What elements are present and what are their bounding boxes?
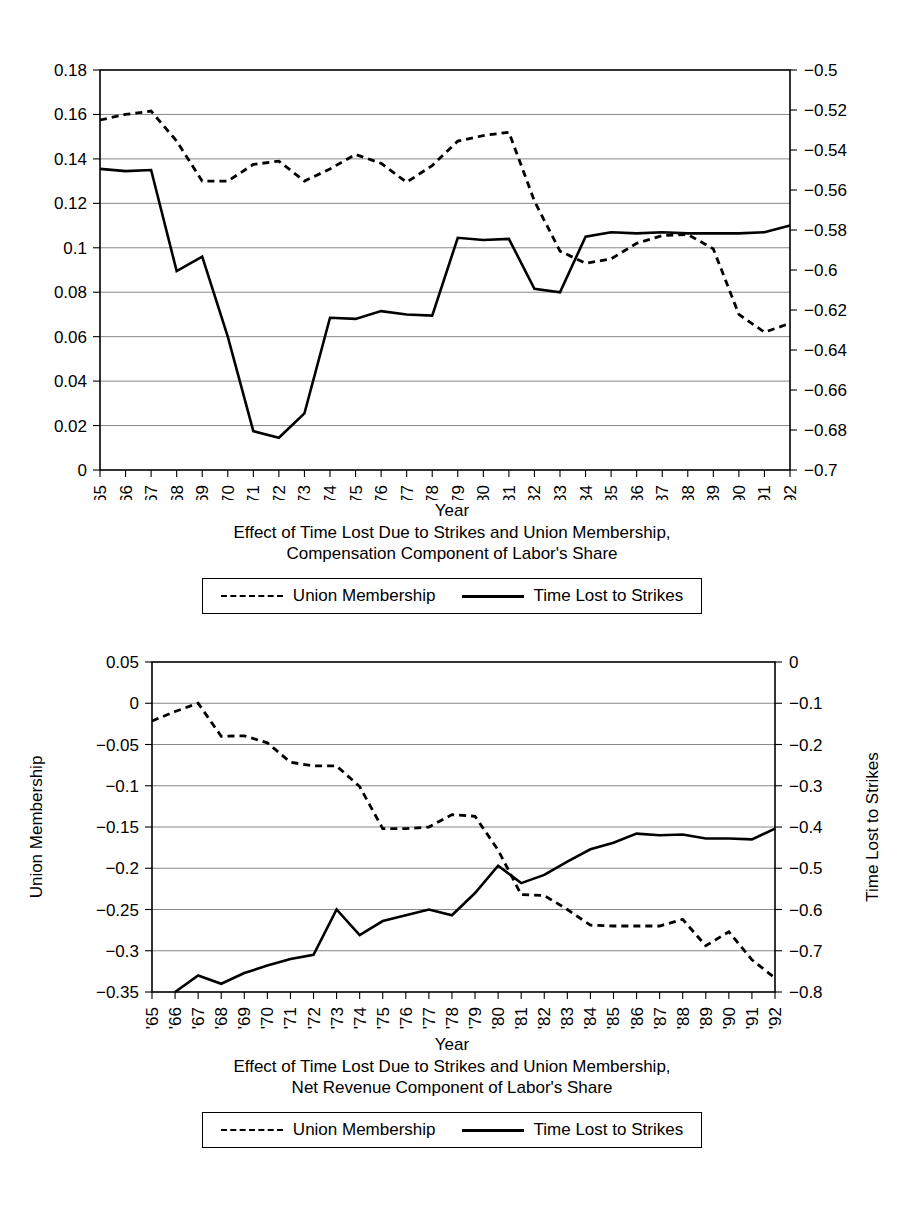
x-axis-tick-label: '79 (466, 1007, 485, 1029)
chart-title-line2: Net Revenue Component of Labor's Share (0, 1077, 904, 1098)
x-axis-tick-label: '86 (628, 485, 647, 500)
legend-item-union-membership: Union Membership (221, 586, 436, 606)
dashed-line-icon (221, 595, 283, 597)
left-axis-tick-label: −0.25 (96, 901, 139, 920)
right-axis-tick-label: −0.1 (789, 694, 823, 713)
x-axis-tick-label: '69 (193, 485, 212, 500)
x-axis-tick-label: '82 (535, 1007, 554, 1029)
x-axis-tick-label: '73 (295, 485, 314, 500)
x-axis-tick-label: '71 (281, 1007, 300, 1029)
right-axis-tick-label: −0.52 (804, 101, 847, 120)
x-axis-tick-label: '72 (270, 485, 289, 500)
legend-label: Union Membership (293, 586, 436, 606)
x-axis-tick-label: '68 (212, 1007, 231, 1029)
legend-item-union-membership: Union Membership (221, 1120, 436, 1140)
right-axis-tick-label: 0 (789, 653, 798, 672)
right-axis-tick-label: −0.5 (789, 859, 823, 878)
right-axis-tick-label: −0.66 (804, 381, 847, 400)
x-axis-tick-label: '84 (577, 485, 596, 500)
right-axis-tick-label: −0.3 (789, 777, 823, 796)
left-axis-tick-label: −0.15 (96, 818, 139, 837)
right-axis-tick-label: −0.64 (804, 341, 847, 360)
x-axis-tick-label: '69 (235, 1007, 254, 1029)
right-axis-tick-label: −0.2 (789, 736, 823, 755)
series-line-solid (175, 829, 775, 992)
legend: Union Membership Time Lost to Strikes (202, 578, 702, 614)
x-axis-tick-label: '89 (697, 1007, 716, 1029)
chart-page: 00.020.040.060.080.10.120.140.160.18−0.7… (0, 0, 904, 1230)
chart-title-line2: Compensation Component of Labor's Share (0, 543, 904, 564)
left-axis-tick-label: 0.02 (54, 417, 87, 436)
right-axis-tick-label: −0.5 (804, 61, 838, 80)
x-axis-tick-label: '81 (500, 485, 519, 500)
x-axis-tick-label: '88 (679, 485, 698, 500)
x-axis-tick-label: '65 (91, 485, 110, 500)
x-axis-tick-label: '80 (489, 1007, 508, 1029)
x-axis-tick-label: '91 (743, 1007, 762, 1029)
x-axis-tick-label: '77 (398, 485, 417, 500)
x-axis-tick-label: '83 (558, 1007, 577, 1029)
plot-frame (100, 70, 790, 470)
left-axis-tick-label: −0.3 (105, 942, 139, 961)
legend-item-time-lost-to-strikes: Time Lost to Strikes (462, 586, 684, 606)
x-axis-tick-label: '76 (372, 485, 391, 500)
chart-net-revenue-plot: −0.35−0.3−0.25−0.2−0.15−0.1−0.0500.05−0.… (0, 640, 904, 1030)
right-axis-tick-label: −0.56 (804, 181, 847, 200)
left-axis-tick-label: 0.18 (54, 61, 87, 80)
solid-line-icon (462, 595, 524, 598)
x-axis-tick-label: '80 (474, 485, 493, 500)
left-axis-tick-label: 0.14 (54, 150, 87, 169)
x-axis-tick-label: '89 (704, 485, 723, 500)
x-axis-tick-label: '74 (351, 1007, 370, 1029)
x-axis-tick-label: '75 (347, 485, 366, 500)
left-axis-tick-label: −0.2 (105, 859, 139, 878)
x-axis-tick-label: '70 (219, 485, 238, 500)
series-line-dashed (100, 111, 790, 332)
x-axis-title: Year (0, 1034, 904, 1056)
left-axis-tick-label: 0.16 (54, 105, 87, 124)
x-axis-tick-label: '66 (166, 1007, 185, 1029)
right-axis-tick-label: −0.7 (789, 942, 823, 961)
x-axis-tick-label: '68 (168, 485, 187, 500)
x-axis-tick-label: '92 (766, 1007, 785, 1029)
x-axis-tick-label: '88 (674, 1007, 693, 1029)
dashed-line-icon (221, 1129, 283, 1131)
x-axis-tick-label: '91 (755, 485, 774, 500)
chart-compensation-plot: 00.020.040.060.080.10.120.140.160.18−0.7… (0, 0, 904, 500)
right-axis-title: Time Lost to Strikes (863, 752, 882, 902)
right-axis-tick-label: −0.4 (789, 818, 823, 837)
x-axis-tick-label: '78 (443, 1007, 462, 1029)
legend-label: Time Lost to Strikes (534, 1120, 684, 1140)
chart-title-line1: Effect of Time Lost Due to Strikes and U… (0, 1056, 904, 1077)
right-axis-tick-label: −0.8 (789, 983, 823, 1002)
x-axis-tick-label: '72 (305, 1007, 324, 1029)
legend: Union Membership Time Lost to Strikes (202, 1112, 702, 1148)
chart-net-revenue-xlabel-wrap: Year (0, 1034, 904, 1056)
right-axis-tick-label: −0.7 (804, 461, 838, 480)
x-axis-tick-label: '87 (651, 1007, 670, 1029)
x-axis-tick-label: '77 (420, 1007, 439, 1029)
x-axis-tick-label: '85 (604, 1007, 623, 1029)
chart-compensation-title: Effect of Time Lost Due to Strikes and U… (0, 522, 904, 564)
chart-title-line1: Effect of Time Lost Due to Strikes and U… (0, 522, 904, 543)
chart-compensation: 00.020.040.060.080.10.120.140.160.18−0.7… (0, 0, 904, 614)
x-axis-tick-label: '92 (781, 485, 800, 500)
solid-line-icon (462, 1129, 524, 1132)
left-axis-tick-label: −0.05 (96, 736, 139, 755)
x-axis-tick-label: '67 (142, 485, 161, 500)
x-axis-tick-label: '67 (189, 1007, 208, 1029)
chart-net-revenue-title: Effect of Time Lost Due to Strikes and U… (0, 1056, 904, 1098)
x-axis-tick-label: '86 (628, 1007, 647, 1029)
x-axis-tick-label: '75 (374, 1007, 393, 1029)
x-axis-tick-label: '79 (449, 485, 468, 500)
right-axis-tick-label: −0.6 (804, 261, 838, 280)
legend-label: Time Lost to Strikes (534, 586, 684, 606)
x-axis-tick-label: '90 (720, 1007, 739, 1029)
right-axis-tick-label: −0.62 (804, 301, 847, 320)
x-axis-tick-label: '65 (143, 1007, 162, 1029)
x-axis-tick-label: '71 (244, 485, 263, 500)
chart-net-revenue: −0.35−0.3−0.25−0.2−0.15−0.1−0.0500.05−0.… (0, 640, 904, 1148)
legend-item-time-lost-to-strikes: Time Lost to Strikes (462, 1120, 684, 1140)
right-axis-tick-label: −0.68 (804, 421, 847, 440)
x-axis-tick-label: '85 (602, 485, 621, 500)
